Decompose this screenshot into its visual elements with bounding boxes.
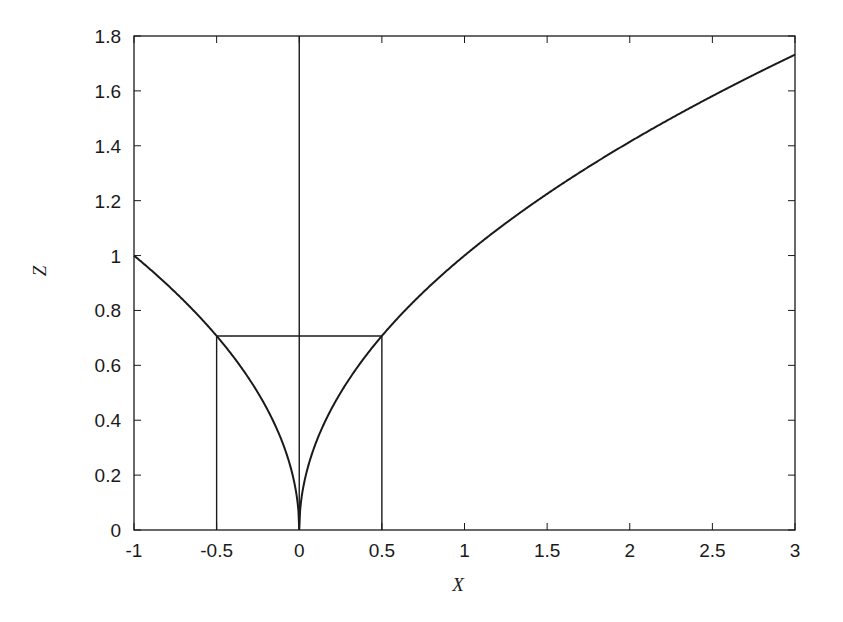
y-tick-label: 0.6	[95, 355, 121, 376]
x-tick-label: 0.5	[369, 540, 395, 561]
y-tick-labels: 00.20.40.60.811.21.41.61.8	[95, 26, 122, 541]
y-tick-label: 1.4	[95, 136, 122, 157]
y-tick-label: 1.8	[95, 26, 121, 47]
y-tick-label: 0.2	[95, 465, 121, 486]
x-tick-label: 1.5	[534, 540, 560, 561]
data-curve	[134, 55, 795, 530]
y-tick-label: 0.4	[95, 410, 122, 431]
x-tick-label: 2.5	[699, 540, 725, 561]
y-tick-label: 1.2	[95, 191, 121, 212]
x-tick-label: 3	[790, 540, 801, 561]
y-tick-label: 1	[110, 246, 121, 267]
plot-frame	[134, 36, 795, 530]
x-tick-label: 0	[294, 540, 305, 561]
x-tick-label: 2	[624, 540, 635, 561]
y-axis-label: Z	[29, 265, 50, 276]
y-tick-label: 0	[110, 520, 121, 541]
chart: -1-0.500.511.522.53 00.20.40.60.811.21.4…	[0, 0, 843, 622]
annotation-lines	[217, 36, 382, 530]
x-tick-label: -0.5	[200, 540, 233, 561]
y-tick-label: 1.6	[95, 81, 121, 102]
x-tick-label: -1	[126, 540, 143, 561]
ticks	[134, 36, 795, 530]
y-tick-label: 0.8	[95, 300, 121, 321]
x-axis-label: X	[451, 574, 465, 595]
x-tick-labels: -1-0.500.511.522.53	[126, 540, 801, 561]
x-tick-label: 1	[459, 540, 470, 561]
